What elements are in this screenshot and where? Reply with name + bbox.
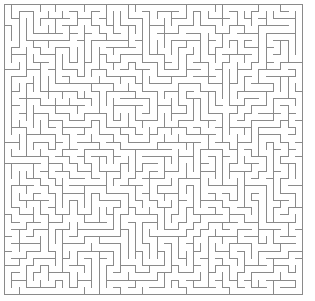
- maze-canvas: [0, 0, 315, 301]
- maze-figure: [0, 0, 315, 301]
